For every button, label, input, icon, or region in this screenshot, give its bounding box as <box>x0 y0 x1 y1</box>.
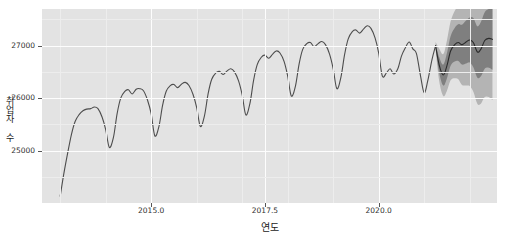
chart-title <box>42 0 497 2</box>
gridline-horizontal <box>42 46 497 47</box>
y-tick-mark <box>38 151 42 152</box>
gridline-vertical-minor <box>470 9 471 203</box>
x-axis-title: 연도 <box>42 219 497 234</box>
x-tick-label: 2017.5 <box>252 206 278 215</box>
y-tick-mark <box>38 98 42 99</box>
y-tick-mark <box>38 46 42 47</box>
x-tick-mark <box>379 203 380 207</box>
gridline-vertical <box>265 9 266 203</box>
y-tick-label: 25000 <box>0 146 35 155</box>
x-tick-mark <box>265 203 266 207</box>
y-tick-label: 26000 <box>0 93 35 102</box>
gridline-vertical-minor <box>197 9 198 203</box>
x-tick-label: 2015.0 <box>138 206 164 215</box>
forecast-chart-figure: 취업자 수 250002600027000 2015.02017.52020.0… <box>0 0 506 238</box>
gridline-horizontal <box>42 151 497 152</box>
gridline-horizontal-minor <box>42 19 497 20</box>
x-tick-mark <box>151 203 152 207</box>
y-tick-label: 27000 <box>0 41 35 50</box>
gridline-vertical-minor <box>242 9 243 203</box>
data-plot-svg <box>42 9 497 203</box>
y-axis-title: 취업자 수 <box>3 96 16 142</box>
gridline-horizontal-minor <box>42 124 497 125</box>
gridline-vertical-minor <box>60 9 61 203</box>
gridline-vertical-minor <box>333 9 334 203</box>
gridline-horizontal-minor <box>42 177 497 178</box>
plot-panel <box>42 9 497 203</box>
x-tick-label: 2020.0 <box>366 206 392 215</box>
gridline-horizontal <box>42 98 497 99</box>
gridline-vertical <box>151 9 152 203</box>
gridline-vertical-minor <box>106 9 107 203</box>
gridline-vertical-minor <box>288 9 289 203</box>
gridline-vertical-minor <box>424 9 425 203</box>
gridline-vertical <box>379 9 380 203</box>
gridline-horizontal-minor <box>42 72 497 73</box>
